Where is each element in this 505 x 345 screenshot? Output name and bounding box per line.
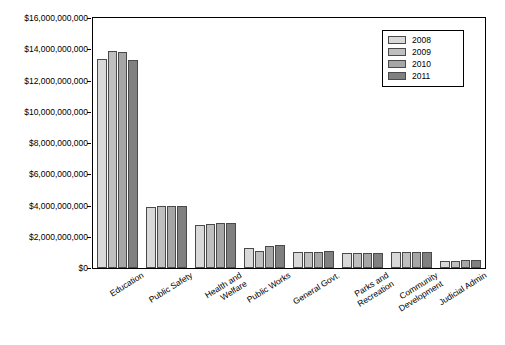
y-axis-tick-mark	[87, 18, 91, 19]
y-axis-tick-label: $16,000,000,000	[0, 14, 88, 23]
legend-item: 2009	[388, 46, 459, 58]
bar	[275, 245, 285, 268]
legend-label: 2010	[412, 60, 431, 69]
bar-group	[289, 18, 338, 268]
bar	[146, 207, 156, 268]
bar	[342, 253, 352, 268]
bar	[177, 206, 187, 269]
bar	[412, 252, 422, 268]
y-axis-tick-label: $10,000,000,000	[0, 107, 88, 116]
y-axis-tick-label: $12,000,000,000	[0, 76, 88, 85]
y-axis-tick-label: $8,000,000,000	[0, 139, 88, 148]
legend-label: 2011	[412, 72, 430, 81]
bar	[293, 252, 303, 268]
bar	[440, 261, 450, 268]
bar	[128, 60, 138, 268]
y-axis-tick-label: $2,000,000,000	[0, 232, 88, 241]
bar	[353, 253, 363, 268]
y-axis-tick-mark	[87, 112, 91, 113]
bar	[451, 261, 461, 268]
bar	[255, 251, 265, 268]
y-axis-tick-mark	[87, 49, 91, 50]
bar	[314, 252, 324, 268]
legend-label: 2008	[412, 36, 431, 45]
legend-item: 2010	[388, 58, 459, 70]
legend-item: 2008	[388, 34, 459, 46]
legend-swatch	[388, 60, 406, 68]
x-axis: EducationPublic SafetyHealth and Welfare…	[93, 270, 485, 345]
legend-swatch	[388, 36, 406, 44]
bar	[118, 52, 128, 268]
y-axis-tick-label: $14,000,000,000	[0, 45, 88, 54]
legend-swatch	[388, 72, 406, 80]
bar-group	[338, 18, 387, 268]
bar	[422, 252, 432, 268]
bar	[265, 246, 275, 268]
bar	[324, 251, 334, 268]
y-axis-tick-mark	[87, 143, 91, 144]
legend-swatch	[388, 48, 406, 56]
bar	[461, 260, 471, 268]
y-axis-tick-mark	[87, 206, 91, 207]
bar	[363, 253, 373, 268]
legend-item: 2011	[388, 70, 459, 82]
bar	[402, 252, 412, 268]
y-axis-tick-mark	[87, 237, 91, 238]
bar-group	[240, 18, 289, 268]
y-axis-tick-mark	[87, 174, 91, 175]
bar-group	[191, 18, 240, 268]
bar	[167, 206, 177, 269]
bar	[304, 252, 314, 268]
y-axis-tick-mark	[87, 81, 91, 82]
bar-group	[142, 18, 191, 268]
bar	[373, 253, 383, 268]
y-axis-tick-label: $0	[0, 264, 88, 273]
y-axis-tick-label: $4,000,000,000	[0, 201, 88, 210]
bar	[471, 260, 481, 268]
bar	[391, 252, 401, 268]
bar	[226, 223, 236, 268]
y-axis: $16,000,000,000$14,000,000,000$12,000,00…	[0, 17, 88, 269]
bar	[108, 51, 118, 268]
bar-group	[93, 18, 142, 268]
bar	[157, 206, 167, 268]
y-axis-tick-mark	[87, 268, 91, 269]
bar	[206, 224, 216, 268]
bar	[97, 59, 107, 268]
bar	[244, 248, 254, 268]
legend-label: 2009	[412, 48, 431, 57]
bar	[216, 223, 226, 268]
y-axis-tick-label: $6,000,000,000	[0, 170, 88, 179]
bar-chart: $16,000,000,000$14,000,000,000$12,000,00…	[0, 0, 505, 345]
legend: 2008200920102011	[382, 30, 464, 87]
bar	[195, 225, 205, 268]
